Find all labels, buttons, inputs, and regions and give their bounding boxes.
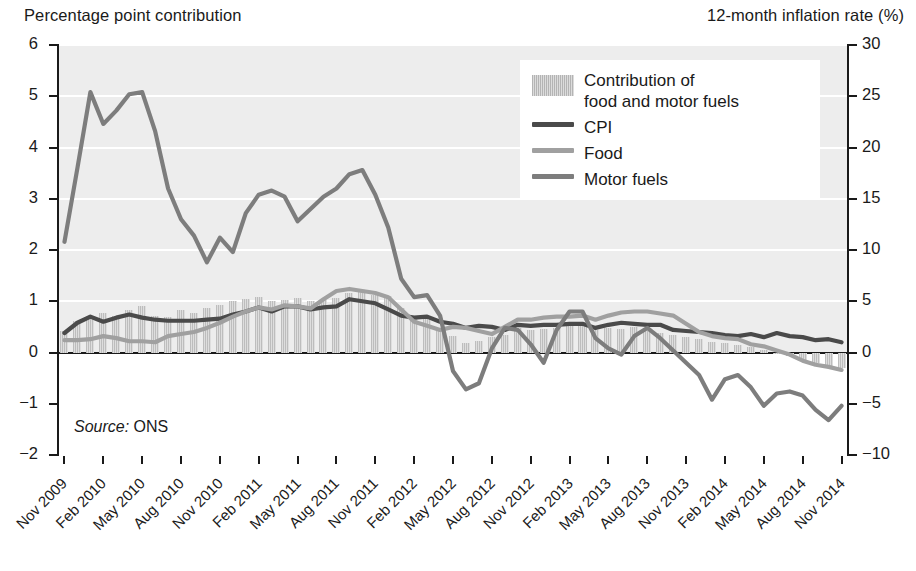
line-food: [64, 289, 841, 370]
left-tick-mark: [49, 454, 57, 456]
source-prefix: Source:: [74, 418, 129, 435]
legend-item[interactable]: Motor fuels: [532, 169, 810, 190]
x-tick-mark: [724, 456, 726, 464]
x-tick-mark: [413, 456, 415, 464]
right-tick-label: 10: [862, 239, 880, 258]
source-note: Source: ONS: [74, 418, 168, 436]
x-tick-mark: [841, 456, 843, 464]
right-tick-mark: [849, 352, 857, 354]
legend-line-swatch-icon: [532, 117, 584, 127]
right-tick-mark: [849, 147, 857, 149]
right-tick-mark: [849, 454, 857, 456]
right-tick-label: −10: [862, 444, 890, 463]
x-tick-mark: [297, 456, 299, 464]
legend-item-label: Contribution offood and motor fuels: [584, 70, 739, 112]
left-tick-label: 3: [29, 188, 38, 207]
right-tick-mark: [849, 44, 857, 46]
right-tick-label: 30: [862, 34, 880, 53]
x-tick-mark: [102, 456, 104, 464]
chart-container: Percentage point contribution 12-month i…: [0, 0, 916, 571]
x-tick-mark: [63, 456, 65, 464]
right-tick-label: −5: [862, 393, 881, 412]
x-tick-mark: [258, 456, 260, 464]
chart-legend: Contribution offood and motor fuelsCPIFo…: [520, 60, 820, 198]
right-tick-label: 5: [862, 290, 871, 309]
right-tick-label: 0: [862, 342, 871, 361]
right-tick-mark: [849, 403, 857, 405]
legend-item-label: CPI: [584, 117, 612, 138]
right-tick-mark: [849, 95, 857, 97]
right-tick-mark: [849, 249, 857, 251]
legend-bar-swatch-icon: [532, 70, 584, 96]
left-axis-line: [57, 44, 59, 456]
left-tick-mark: [49, 300, 57, 302]
left-tick-mark: [49, 403, 57, 405]
left-axis-caption: Percentage point contribution: [24, 6, 242, 25]
legend-item[interactable]: Contribution offood and motor fuels: [532, 70, 810, 112]
swatch: [532, 174, 574, 179]
left-tick-label: 4: [29, 137, 38, 156]
x-tick-mark: [763, 456, 765, 464]
left-tick-mark: [49, 249, 57, 251]
x-tick-mark: [374, 456, 376, 464]
swatch: [532, 148, 574, 153]
legend-item[interactable]: CPI: [532, 117, 810, 138]
legend-item[interactable]: Food: [532, 143, 810, 164]
x-tick-mark: [335, 456, 337, 464]
x-tick-mark: [219, 456, 221, 464]
left-tick-mark: [49, 198, 57, 200]
legend-item-label: Food: [584, 143, 623, 164]
right-tick-mark: [849, 198, 857, 200]
right-tick-mark: [849, 300, 857, 302]
left-tick-mark: [49, 352, 57, 354]
x-tick-mark: [180, 456, 182, 464]
left-tick-mark: [49, 147, 57, 149]
left-tick-label: 6: [29, 34, 38, 53]
legend-line-swatch-icon: [532, 169, 584, 179]
left-tick-mark: [49, 44, 57, 46]
legend-item-label: Motor fuels: [584, 169, 668, 190]
x-tick-mark: [685, 456, 687, 464]
left-tick-mark: [49, 95, 57, 97]
source-value: ONS: [134, 418, 169, 435]
left-tick-label: 0: [29, 342, 38, 361]
right-axis-ticks: 302520151050−5−10: [862, 0, 916, 571]
left-tick-label: −2: [19, 444, 38, 463]
x-tick-mark: [607, 456, 609, 464]
left-axis-ticks: 6543210−1−2: [0, 0, 44, 571]
x-tick-mark: [569, 456, 571, 464]
right-tick-label: 25: [862, 85, 880, 104]
x-tick-mark: [802, 456, 804, 464]
left-tick-label: −1: [19, 393, 38, 412]
left-tick-label: 5: [29, 85, 38, 104]
left-tick-label: 1: [29, 290, 38, 309]
swatch: [532, 122, 574, 127]
left-tick-label: 2: [29, 239, 38, 258]
x-tick-mark: [141, 456, 143, 464]
x-tick-mark: [646, 456, 648, 464]
right-tick-label: 20: [862, 137, 880, 156]
x-tick-mark: [491, 456, 493, 464]
x-tick-mark: [452, 456, 454, 464]
legend-line-swatch-icon: [532, 143, 584, 153]
x-tick-mark: [530, 456, 532, 464]
swatch: [532, 75, 574, 96]
right-tick-label: 15: [862, 188, 880, 207]
